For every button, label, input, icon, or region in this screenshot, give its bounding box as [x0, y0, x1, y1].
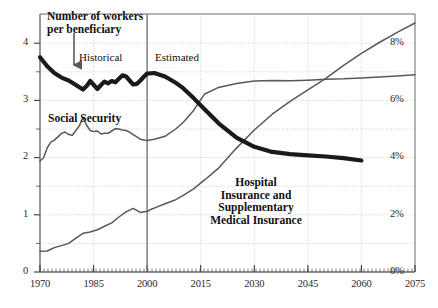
x-axis-tick-1985: 1985 — [74, 278, 114, 289]
chart-figure: Number of workers per beneficiary Histor… — [0, 0, 438, 308]
chart-plot-area — [0, 0, 438, 308]
hi-smi-line-3: Supplementary — [196, 201, 316, 214]
hi-smi-line-4: Medical Insurance — [196, 214, 316, 227]
x-axis-tick-2000: 2000 — [127, 278, 167, 289]
y-axis-left-tick-1: 1 — [8, 208, 28, 219]
y-axis-left-tick-4: 4 — [8, 36, 28, 47]
y-axis-right-tick-4pct: 4% — [390, 150, 416, 161]
y-axis-left-tick-2: 2 — [8, 150, 28, 161]
y-axis-right-tick-2pct: 2% — [390, 208, 416, 219]
x-axis-tick-2015: 2015 — [181, 278, 221, 289]
x-axis-tick-2045: 2045 — [288, 278, 328, 289]
label-historical: Historical — [79, 51, 122, 63]
y-axis-left-tick-0: 0 — [8, 265, 28, 276]
y-axis-right-tick-6pct: 6% — [390, 93, 416, 104]
hi-smi-line-2: Insurance and — [196, 189, 316, 202]
chart-title-line-1: Number of workers — [47, 10, 143, 23]
hi-smi-line-1: Hospital — [196, 176, 316, 189]
y-axis-right-tick-8pct: 8% — [390, 36, 416, 47]
vertical-gridlines — [94, 14, 362, 272]
label-social-security: Social Security — [48, 112, 121, 125]
chart-title-line-2: per beneficiary — [47, 23, 143, 36]
label-estimated: Estimated — [155, 51, 199, 63]
y-axis-right-tick-0pct: 0% — [390, 265, 416, 276]
y-axis-left-ticks — [34, 43, 40, 272]
series-workers-per-beneficiary — [40, 57, 361, 160]
label-hospital-insurance-smi: Hospital Insurance and Supplementary Med… — [196, 176, 316, 226]
chart-title-annotation: Number of workers per beneficiary — [47, 10, 143, 35]
x-axis-tick-1970: 1970 — [20, 278, 60, 289]
x-axis-tick-2060: 2060 — [341, 278, 381, 289]
y-axis-left-tick-3: 3 — [8, 93, 28, 104]
x-axis-tick-2075: 2075 — [395, 278, 435, 289]
x-axis-tick-2030: 2030 — [234, 278, 274, 289]
